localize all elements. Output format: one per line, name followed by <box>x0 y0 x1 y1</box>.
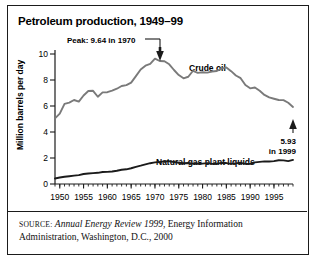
series-line-natural-gas-plant-liquids <box>55 160 293 179</box>
y-axis-ticks <box>50 54 55 184</box>
source-note: SOURCE: Annual Energy Review 1999, Energ… <box>19 218 299 244</box>
peak-annotation-pointer <box>145 39 164 61</box>
end-value-annotation-pointer <box>289 119 297 133</box>
source-divider <box>8 211 307 212</box>
figure-container: Petroleum production, 1949–99 Million ba… <box>7 5 309 255</box>
chart-area: Petroleum production, 1949–99 Million ba… <box>8 6 307 211</box>
series-line-crude-oil <box>55 59 293 119</box>
source-publication-title: Annual Energy Review 1999 <box>55 219 163 229</box>
x-axis-major-ticks <box>60 184 274 189</box>
source-label: SOURCE: <box>19 220 52 229</box>
plot-svg <box>8 6 307 211</box>
